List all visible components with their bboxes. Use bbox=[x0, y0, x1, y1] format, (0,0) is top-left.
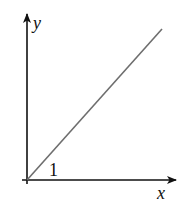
diagram-canvas: y x 1 bbox=[0, 0, 188, 215]
angle-label: 1 bbox=[49, 160, 58, 180]
y-axis-label: y bbox=[31, 13, 41, 33]
line-through-origin bbox=[27, 29, 162, 180]
x-axis-label: x bbox=[156, 183, 165, 203]
line-diagram: y x 1 bbox=[0, 0, 188, 215]
